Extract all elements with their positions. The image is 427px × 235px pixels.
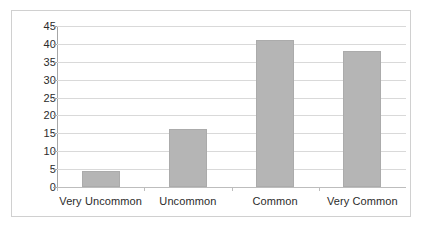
y-axis-tick-mark — [53, 44, 57, 45]
y-axis-tick-mark — [53, 62, 57, 63]
bar-slot — [57, 26, 144, 187]
y-axis-tick-label: 0 — [18, 182, 56, 193]
y-axis-tick-label: 45 — [18, 21, 56, 32]
y-axis-tick-mark — [53, 26, 57, 27]
bar[interactable] — [256, 40, 294, 187]
x-axis-category-label: Very Common — [319, 195, 406, 208]
x-axis-tick-mark — [232, 187, 233, 191]
bar-slot — [144, 26, 231, 187]
y-axis-tick-label: 30 — [18, 75, 56, 86]
bar-slot — [232, 26, 319, 187]
x-axis-category-label: Uncommon — [144, 195, 231, 208]
y-axis-tick-mark — [53, 169, 57, 170]
y-axis-tick-mark — [53, 80, 57, 81]
x-axis-category-labels: Very UncommonUncommonCommonVery Common — [57, 195, 406, 215]
y-axis-tick-mark — [53, 151, 57, 152]
y-axis-tick-label: 15 — [18, 128, 56, 139]
y-axis-tick-label: 35 — [18, 57, 56, 68]
y-axis-tick-mark — [53, 98, 57, 99]
y-axis-tick-label: 10 — [18, 146, 56, 157]
bar[interactable] — [169, 129, 207, 187]
y-axis-tick-label: 20 — [18, 110, 56, 121]
x-axis-tick-mark — [57, 187, 58, 191]
chart-frame: 454035302520151050 Very UncommonUncommon… — [11, 10, 411, 217]
bar[interactable] — [82, 171, 120, 187]
y-axis-tick-labels: 454035302520151050 — [12, 26, 56, 187]
x-axis-category-label: Very Uncommon — [57, 195, 144, 208]
bar-series — [57, 26, 406, 187]
bar-slot — [319, 26, 406, 187]
y-axis-tick-label: 40 — [18, 39, 56, 50]
x-axis-category-label: Common — [232, 195, 319, 208]
y-axis-tick-mark — [53, 115, 57, 116]
y-axis-tick-label: 5 — [18, 164, 56, 175]
y-axis-tick-label: 25 — [18, 93, 56, 104]
x-axis-tick-mark — [144, 187, 145, 191]
plot-area — [57, 26, 406, 187]
bar[interactable] — [343, 51, 381, 187]
y-axis-tick-mark — [53, 133, 57, 134]
x-axis-tick-mark — [319, 187, 320, 191]
